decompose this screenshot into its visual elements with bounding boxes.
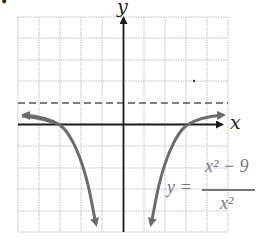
curve-left-branch [22,116,96,224]
x-axis-label: x [230,111,241,133]
y-axis-label: y [117,0,128,17]
equation-denominator: x² [220,193,233,214]
equation-numerator: x² − 9 [205,156,249,177]
curve-right-arrowhead [187,115,223,125]
equation-lhs: y = [167,177,192,198]
graph-figure: • [0,0,261,240]
fraction-bar [202,189,255,191]
curve-right-branch [151,125,187,224]
